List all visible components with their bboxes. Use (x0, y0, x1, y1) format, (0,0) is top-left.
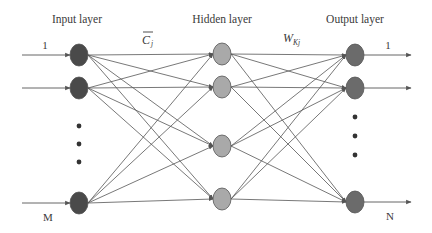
weight-w-subscript: Kj (292, 38, 300, 47)
hidden-node (213, 135, 231, 157)
neural-network-diagram: Input layer Hidden layer Output layer 1 … (0, 0, 432, 233)
input-ellipsis-dot (77, 160, 82, 165)
edge-input-hidden (88, 88, 213, 146)
input-node (70, 192, 88, 214)
edge-hidden-output (231, 54, 346, 55)
edge-input-hidden (88, 87, 213, 88)
input-ellipsis-dot (77, 142, 82, 147)
connection-edges (88, 54, 346, 203)
edge-hidden-output (231, 88, 346, 146)
input-last-label: M (43, 211, 53, 223)
edge-input-hidden (88, 199, 213, 203)
output-ellipsis-dot (353, 134, 358, 139)
edge-input-hidden (88, 55, 213, 146)
input-node (70, 77, 88, 99)
input-layer-title: Input layer (52, 13, 102, 26)
hidden-node (213, 76, 231, 98)
neuron-nodes (70, 43, 364, 214)
edge-hidden-output (231, 87, 346, 88)
hidden-node (213, 188, 231, 210)
edge-hidden-output (231, 55, 346, 87)
hidden-node (213, 43, 231, 65)
hidden-output-weight-label: W Kj (283, 31, 300, 47)
output-first-label: 1 (385, 39, 391, 51)
output-node (346, 77, 364, 99)
input-first-label: 1 (42, 39, 48, 51)
input-hidden-weight-label: C j (142, 32, 153, 48)
weight-c-subscript: j (150, 39, 153, 48)
output-ellipsis-dot (353, 115, 358, 120)
hidden-layer-title: Hidden layer (192, 13, 252, 26)
edge-hidden-output (231, 199, 346, 202)
edge-input-hidden (88, 54, 213, 55)
edge-input-hidden (88, 54, 213, 88)
output-node (346, 44, 364, 66)
input-ellipsis-dot (77, 124, 82, 129)
weight-c-symbol: C (142, 33, 151, 47)
edge-hidden-output (231, 55, 346, 146)
output-ellipsis-dot (353, 153, 358, 158)
output-layer-title: Output layer (326, 13, 384, 26)
input-node (70, 44, 88, 66)
edge-hidden-output (231, 146, 346, 202)
edge-input-hidden (88, 146, 213, 203)
output-node (346, 191, 364, 213)
output-last-label: N (386, 210, 394, 222)
